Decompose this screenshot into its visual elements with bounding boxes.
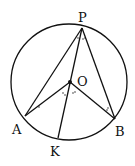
label-a: A [11, 122, 22, 137]
center-point [68, 80, 72, 84]
geometry-diagram: P O A B K [0, 0, 135, 166]
label-k: K [50, 144, 60, 159]
label-b: B [115, 124, 125, 139]
label-p: P [78, 10, 87, 25]
label-o: O [77, 74, 88, 89]
segment-pa [25, 28, 82, 116]
